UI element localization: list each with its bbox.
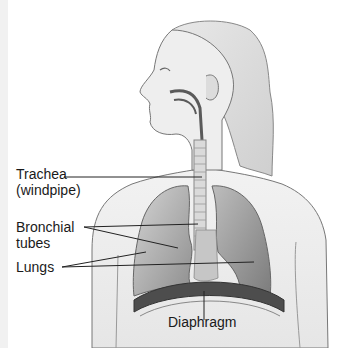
label-trachea-line2: (windpipe) [16,182,81,198]
label-lungs: Lungs [16,259,54,275]
label-trachea: Trachea (windpipe) [16,166,81,198]
label-bronchial-tubes: Bronchial tubes [16,219,74,251]
label-trachea-line1: Trachea [16,166,81,182]
label-lungs-line1: Lungs [16,259,54,275]
label-bronchial-line2: tubes [16,235,74,251]
label-diaphragm-line1: Diaphragm [168,314,236,330]
label-bronchial-line1: Bronchial [16,219,74,235]
head [140,30,234,170]
label-diaphragm: Diaphragm [168,314,236,330]
